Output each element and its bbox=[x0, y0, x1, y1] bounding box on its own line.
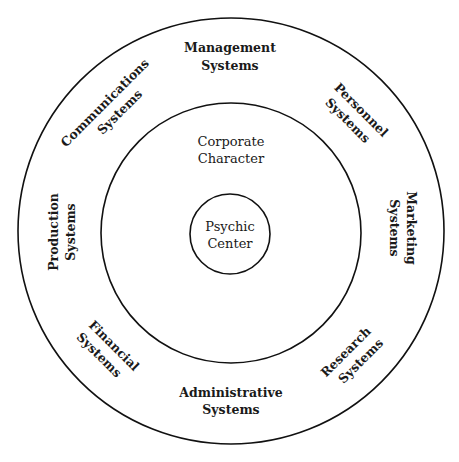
svg-text:Systems: Systems bbox=[202, 402, 259, 417]
financial-systems-label: Financial Systems bbox=[74, 317, 143, 386]
corporate-character-label: Corporate Character bbox=[197, 134, 265, 166]
svg-text:Systems: Systems bbox=[201, 58, 258, 73]
research-systems-label: Research Systems bbox=[318, 323, 387, 392]
communications-systems-label: Communications Systems bbox=[58, 56, 164, 162]
svg-text:Production: Production bbox=[46, 193, 61, 271]
production-systems-label: Production Systems bbox=[46, 193, 78, 271]
concentric-diagram: Psychic Center Corporate Character Manag… bbox=[0, 0, 459, 462]
personnel-systems-label: Personnel Systems bbox=[319, 80, 391, 152]
svg-text:Center: Center bbox=[207, 236, 253, 251]
svg-text:Systems: Systems bbox=[63, 203, 78, 260]
management-systems-label: Management Systems bbox=[184, 40, 276, 73]
administrative-systems-label: Administrative Systems bbox=[178, 385, 283, 417]
marketing-systems-label: Marketing Systems bbox=[387, 191, 419, 265]
svg-text:Corporate: Corporate bbox=[197, 134, 264, 149]
svg-text:Character: Character bbox=[198, 151, 265, 166]
inner-circle bbox=[190, 194, 270, 274]
svg-text:Administrative: Administrative bbox=[178, 385, 283, 400]
svg-text:Psychic: Psychic bbox=[205, 219, 255, 234]
svg-text:Systems: Systems bbox=[387, 199, 402, 256]
svg-text:Marketing: Marketing bbox=[404, 191, 419, 265]
psychic-center-label: Psychic Center bbox=[205, 219, 255, 251]
svg-text:Management: Management bbox=[184, 40, 276, 55]
